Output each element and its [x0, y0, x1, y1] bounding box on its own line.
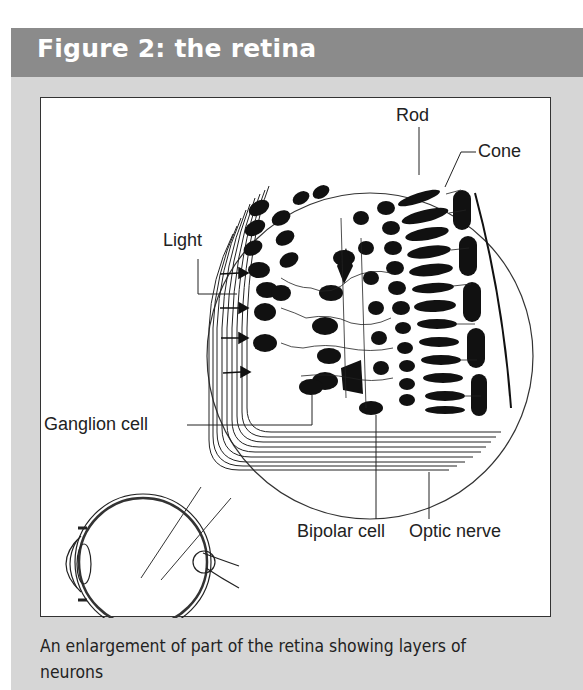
cone-leader — [445, 152, 476, 187]
label-rod: Rod — [396, 105, 429, 126]
label-light: Light — [163, 230, 202, 251]
pigment-cell — [453, 190, 471, 230]
figure-caption: An enlargement of part of the retina sho… — [40, 633, 518, 685]
figure-header: Figure 2: the retina — [11, 28, 583, 77]
label-cone: Cone — [478, 141, 521, 162]
label-ganglion-cell: Ganglion cell — [44, 414, 148, 435]
ganglion-cell-body — [299, 379, 323, 395]
figure-title: Figure 2: the retina — [37, 34, 316, 63]
eye-illustration — [66, 494, 239, 618]
figure-panel: Figure 2: the retina — [11, 28, 583, 690]
label-bipolar-cell: Bipolar cell — [297, 521, 385, 542]
retina-diagram: Rod Cone Light Ganglion cell Bipolar cel… — [40, 97, 551, 617]
label-optic-nerve: Optic nerve — [409, 521, 501, 542]
